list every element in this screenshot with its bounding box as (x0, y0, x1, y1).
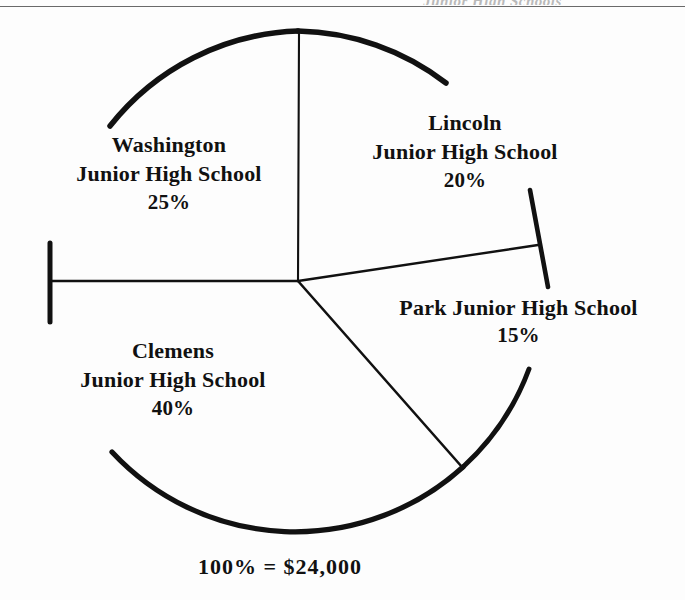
slice-label-clemens: Clemens Junior High School 40% (38, 336, 308, 422)
slice-label-clemens-name: Clemens (38, 336, 308, 365)
slice-label-lincoln-school: Junior High School (320, 137, 610, 166)
radius-lincoln-park (298, 245, 538, 281)
slice-label-washington-school: Junior High School (34, 159, 304, 188)
slice-label-park-name: Park Junior High School (352, 293, 685, 322)
arc-washington-upper (110, 31, 298, 126)
slice-label-park-percent: 15% (352, 322, 685, 350)
chart-total-caption: 100% = $24,000 (0, 554, 560, 580)
arc-lincoln-upper (298, 31, 446, 83)
slice-label-clemens-percent: 40% (38, 395, 308, 423)
slice-label-washington: Washington Junior High School 25% (34, 130, 304, 216)
slice-label-washington-name: Washington (34, 130, 304, 159)
slice-label-washington-percent: 25% (34, 189, 304, 217)
arc-clemens-bottom (112, 452, 463, 532)
arc-park-lower (463, 369, 529, 467)
slice-label-park: Park Junior High School 15% (352, 293, 685, 350)
arc-lincoln-park-cap (530, 190, 548, 287)
slice-label-lincoln-percent: 20% (320, 167, 610, 195)
slice-label-lincoln: Lincoln Junior High School 20% (320, 108, 610, 194)
slice-label-lincoln-name: Lincoln (320, 108, 610, 137)
pie-chart-page: Junior High Schools Washington Junior Hi… (0, 0, 685, 600)
slice-label-clemens-school: Junior High School (38, 365, 308, 394)
